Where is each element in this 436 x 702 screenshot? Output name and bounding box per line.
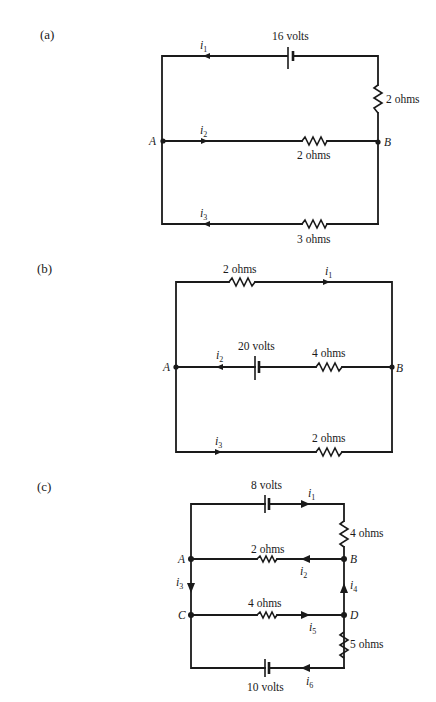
current-label-i3: i3	[176, 575, 183, 591]
arrow-left-icon	[301, 555, 310, 563]
current-label-i1: i1	[200, 38, 207, 54]
node-label-a: A	[177, 553, 186, 565]
battery-icon	[288, 47, 293, 69]
current-label-i2: i2	[216, 348, 223, 364]
resistor-label: 4 ohms	[312, 347, 346, 359]
node-label-b: B	[396, 362, 403, 374]
node-label-a: A	[148, 135, 157, 147]
current-label-i1: i1	[308, 486, 315, 502]
wire-top-left	[162, 56, 287, 141]
node-label-b: B	[350, 553, 357, 565]
resistor-label: 2 ohms	[312, 432, 346, 444]
arrow-up-icon	[340, 583, 348, 593]
battery-label: 20 volts	[238, 340, 275, 352]
resistor-icon	[374, 85, 382, 113]
node-a	[160, 138, 165, 143]
current-label-i5: i5	[309, 620, 316, 636]
wire-top-right	[269, 504, 344, 521]
resistor-label: 2 ohms	[223, 263, 257, 275]
resistor-icon	[257, 612, 277, 618]
part-label-c: (c)	[37, 479, 51, 494]
resistor-label: 2 ohms	[386, 93, 420, 105]
node-c	[188, 612, 194, 618]
current-label-i6: i6	[306, 674, 313, 690]
current-label-i1: i1	[325, 264, 332, 280]
circuit-c: (c) 8 volts i1 4 ohms 2 ohms i2 i3 i4	[37, 479, 384, 693]
battery-label: 10 volts	[247, 681, 284, 693]
circuit-a: (a) 16 volts i1 2 ohms 2 ohms i2 3 ohms …	[40, 27, 420, 245]
part-label-b: (b)	[37, 261, 52, 276]
resistor-icon	[229, 278, 255, 286]
resistor-label: 4 ohms	[350, 527, 384, 539]
current-label-i2: i2	[300, 564, 307, 580]
resistor-icon	[316, 363, 342, 371]
node-a	[188, 556, 194, 562]
node-a	[173, 364, 178, 369]
current-label-i3: i3	[215, 434, 222, 450]
node-label-c: C	[178, 609, 186, 621]
wire-bottom-left	[176, 367, 316, 452]
resistor-icon	[257, 556, 277, 562]
node-b	[389, 364, 394, 369]
node-d	[341, 612, 347, 618]
resistor-label: 3 ohms	[297, 233, 331, 245]
resistor-label: 5 ohms	[350, 638, 384, 650]
node-label-d: D	[349, 609, 359, 621]
current-label-i3: i3	[200, 206, 207, 222]
resistor-icon	[316, 448, 342, 456]
node-label-a: A	[162, 361, 171, 373]
node-b	[375, 139, 380, 144]
arrow-left-icon	[216, 364, 223, 370]
arrow-down-icon	[187, 583, 195, 593]
resistor-icon	[302, 137, 327, 145]
arrow-left-icon	[301, 664, 310, 672]
part-label-a: (a)	[40, 27, 54, 42]
resistor-label: 2 ohms	[297, 149, 331, 161]
current-label-i2: i2	[200, 123, 207, 139]
circuit-b: (b) 2 ohms i1 20 volts 4 ohms i2 2 ohms …	[37, 261, 403, 456]
resistor-icon	[302, 220, 327, 228]
wire-left-bottom	[191, 559, 265, 668]
battery-label: 8 volts	[251, 479, 283, 491]
current-label-i4: i4	[350, 578, 357, 594]
node-label-b: B	[384, 136, 391, 148]
resistor-label: 2 ohms	[251, 543, 285, 555]
battery-label: 16 volts	[272, 30, 309, 42]
node-b	[341, 556, 347, 562]
arrow-right-icon	[301, 500, 310, 508]
wire-bottom-left	[162, 141, 302, 224]
resistor-label: 4 ohms	[248, 597, 282, 609]
resistor-icon	[340, 521, 348, 547]
wire-top-right	[293, 56, 378, 85]
circuit-figure: (a) 16 volts i1 2 ohms 2 ohms i2 3 ohms …	[0, 0, 436, 702]
battery-icon	[255, 356, 259, 380]
arrow-right-icon	[301, 611, 310, 619]
